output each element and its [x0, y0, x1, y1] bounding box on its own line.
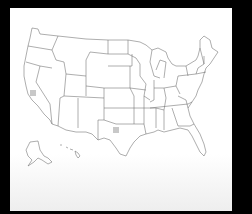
hawaii-inset — [60, 145, 80, 158]
us-map — [0, 0, 252, 214]
alaska-inset — [26, 141, 52, 166]
marker-california — [30, 90, 36, 96]
marker-texas — [113, 127, 119, 133]
